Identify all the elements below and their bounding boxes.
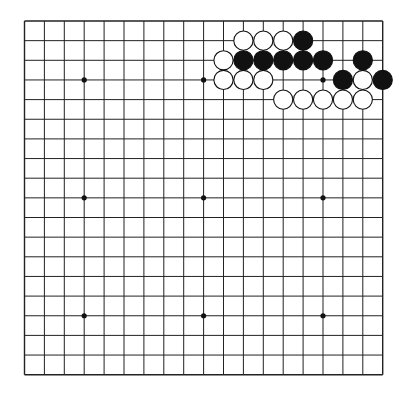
white-stone (274, 90, 293, 109)
black-stone (294, 31, 313, 50)
star-point (201, 195, 206, 200)
white-stone (234, 70, 253, 89)
star-point (320, 77, 325, 82)
white-stone (353, 70, 372, 89)
black-stone (254, 51, 273, 70)
white-stone (254, 70, 273, 89)
black-stone (373, 70, 392, 89)
black-stone (234, 51, 253, 70)
white-stone (353, 90, 372, 109)
black-stone (333, 70, 352, 89)
white-stone (234, 31, 253, 50)
white-stone (214, 70, 233, 89)
white-stone (214, 51, 233, 70)
white-stone (294, 90, 313, 109)
black-stone (274, 51, 293, 70)
star-point (82, 195, 87, 200)
star-point (201, 313, 206, 318)
black-stone (313, 51, 332, 70)
black-stone (353, 51, 372, 70)
star-point (320, 195, 325, 200)
star-point (201, 77, 206, 82)
star-point (82, 313, 87, 318)
star-point (320, 313, 325, 318)
stones-layer (214, 31, 392, 109)
white-stone (333, 90, 352, 109)
white-stone (313, 90, 332, 109)
white-stone (254, 31, 273, 50)
go-board[interactable] (0, 0, 415, 397)
black-stone (294, 51, 313, 70)
star-point (82, 77, 87, 82)
white-stone (274, 31, 293, 50)
